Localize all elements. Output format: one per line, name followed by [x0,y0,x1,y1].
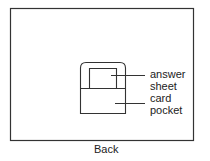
label-sheet: sheet [150,80,177,92]
label-card: card [150,92,171,104]
answer-sheet-outline [90,69,117,89]
view-caption: Back [94,143,118,155]
diagram-canvas [0,0,210,161]
label-answer: answer [150,68,185,80]
label-pocket: pocket [150,104,182,116]
